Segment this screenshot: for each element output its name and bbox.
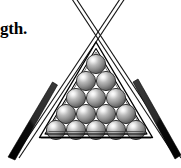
billiard-ball — [76, 71, 95, 90]
billiard-ball — [86, 54, 105, 73]
billiard-ball — [106, 120, 125, 139]
billiard-ball — [96, 71, 115, 90]
billiard-ball — [86, 120, 105, 139]
line-art-canvas — [0, 0, 181, 168]
billiard-ball — [46, 120, 65, 139]
billiard-balls — [46, 54, 145, 139]
billiards-illustration: gth. — [0, 0, 181, 168]
billiard-ball — [66, 120, 85, 139]
billiard-ball — [126, 120, 145, 139]
